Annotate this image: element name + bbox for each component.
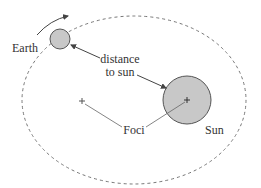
distance-label-line1: distance	[100, 52, 139, 66]
foci-leader-left	[85, 104, 122, 127]
earth-circle	[50, 29, 70, 49]
sun-label: Sun	[205, 123, 224, 137]
distance-arrow-to-sun	[137, 75, 166, 88]
earth-label: Earth	[12, 41, 38, 55]
distance-label-line2: to sun	[105, 65, 134, 79]
focus-left-marker	[79, 98, 85, 104]
foci-label: Foci	[123, 123, 145, 137]
distance-arrow-to-earth	[71, 45, 100, 58]
orbit-diagram: Earth distance to sun Foci Sun	[0, 0, 261, 188]
